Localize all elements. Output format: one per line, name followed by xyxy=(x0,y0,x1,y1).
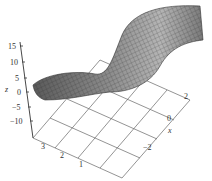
z-tick-label: −5 xyxy=(12,103,21,112)
y-tick-label: 2 xyxy=(60,151,64,160)
x-tick-label: −2 xyxy=(143,143,152,152)
x-axis-label: x xyxy=(167,126,172,135)
surface xyxy=(33,6,203,100)
y-tick-label: 3 xyxy=(41,142,45,151)
x-tick-label: 2 xyxy=(184,92,188,101)
surface-plot: 15 10 5 0 −5 −10 z 3 2 1 2 0 −2 x xyxy=(0,0,212,181)
x-tick-label: 0 xyxy=(167,114,171,123)
z-tick-label: 10 xyxy=(10,58,18,67)
z-tick-label: 0 xyxy=(17,88,21,97)
z-axis-label: z xyxy=(4,85,9,94)
z-tick-label: 15 xyxy=(8,42,16,51)
y-tick-label: 1 xyxy=(79,160,83,169)
z-tick-label: −10 xyxy=(10,117,23,126)
z-tick-label: 5 xyxy=(15,74,19,83)
